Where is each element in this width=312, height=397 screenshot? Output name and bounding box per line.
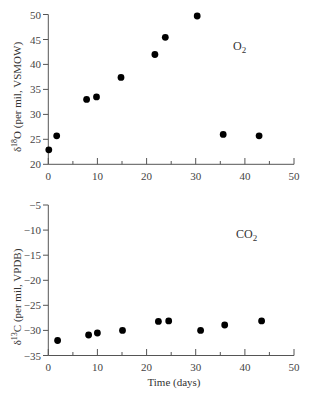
data-point (152, 51, 159, 58)
tick-label: 10 (92, 361, 104, 373)
tick-label: 40 (239, 361, 251, 373)
tick-label: −35 (24, 350, 42, 362)
tick-label: 20 (141, 170, 153, 182)
top-y-axis-title: δ18O (per mil, VSMOW) (10, 42, 24, 152)
data-point (155, 318, 162, 325)
tick-label: −30 (24, 324, 42, 336)
tick-label: 30 (190, 170, 202, 182)
top-y-tick-labels: 20 25 30 35 40 45 50 (30, 9, 42, 171)
tick-label: −15 (24, 249, 42, 261)
tick-label: −5 (29, 199, 41, 211)
top-x-tick-labels: 0 10 20 30 40 50 (46, 170, 300, 182)
tick-label: 50 (289, 170, 301, 182)
top-chart: 20 25 30 35 40 45 50 0 10 20 30 40 50 δ1… (10, 9, 300, 183)
bottom-x-ticks (48, 349, 294, 356)
tick-label: −10 (24, 224, 42, 236)
top-data-points (45, 13, 262, 154)
tick-label: 20 (141, 361, 153, 373)
data-point (220, 131, 227, 138)
bottom-chart: −35 −30 −25 −20 −15 −10 −5 0 10 20 30 40… (10, 199, 300, 389)
bottom-y-ticks (43, 205, 48, 356)
tick-label: 30 (190, 361, 202, 373)
data-point (119, 327, 126, 334)
data-point (221, 322, 228, 329)
tick-label: 0 (46, 361, 52, 373)
tick-label: 40 (239, 170, 251, 182)
tick-label: 0 (46, 170, 52, 182)
tick-label: 45 (30, 34, 42, 46)
tick-label: 50 (30, 9, 42, 21)
tick-label: 10 (92, 170, 104, 182)
tick-label: 20 (30, 158, 42, 170)
data-point (194, 13, 201, 20)
data-point (197, 327, 204, 334)
top-y-ticks (43, 15, 48, 165)
tick-label: 30 (30, 108, 42, 120)
data-point (94, 330, 101, 337)
bottom-x-axis-title: Time (days) (147, 376, 200, 389)
data-point (83, 96, 90, 103)
data-point (85, 332, 92, 339)
bottom-y-axis-title: δ13C (per mil, VPDB) (10, 248, 24, 345)
data-point (162, 34, 169, 41)
top-series-label-o2: O2 (233, 39, 246, 55)
bottom-x-tick-labels: 0 10 20 30 40 50 (46, 361, 300, 373)
bottom-y-tick-labels: −35 −30 −25 −20 −15 −10 −5 (24, 199, 42, 362)
tick-label: −20 (24, 274, 42, 286)
data-point (256, 132, 263, 139)
data-point (45, 146, 52, 153)
tick-label: 25 (30, 133, 42, 145)
data-point (165, 318, 172, 325)
tick-label: −25 (24, 299, 42, 311)
data-point (53, 132, 60, 139)
tick-label: 40 (30, 58, 42, 70)
data-point (54, 337, 61, 344)
data-point (118, 74, 125, 81)
tick-label: 35 (30, 83, 42, 95)
bottom-data-points (54, 318, 265, 344)
data-point (93, 94, 100, 101)
data-point (258, 318, 265, 325)
figure: 20 25 30 35 40 45 50 0 10 20 30 40 50 δ1… (0, 0, 312, 397)
tick-label: 50 (289, 361, 301, 373)
top-x-ticks (48, 158, 294, 164)
bottom-series-label-co2: CO2 (236, 227, 257, 243)
